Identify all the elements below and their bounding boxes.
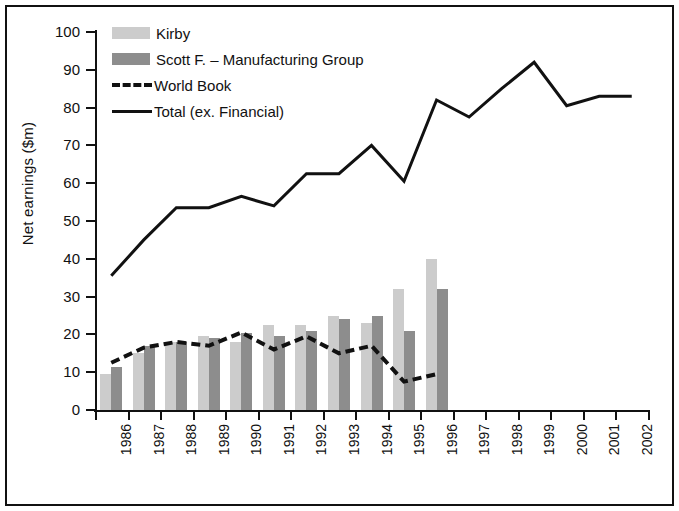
chart-figure: Net earnings ($m) 0102030405060708090100…: [0, 0, 679, 511]
x-tick-2: [160, 411, 162, 420]
legend-swatch-world-book: [112, 83, 152, 87]
legend-item-world-book: World Book: [112, 74, 364, 96]
y-tick-label-10: 10: [20, 363, 80, 380]
x-tick-7: [323, 411, 325, 420]
x-tick-15: [583, 411, 585, 420]
legend-item-total: Total (ex. Financial): [112, 100, 364, 122]
x-tick-5: [258, 411, 260, 420]
x-tick-label-1989: 1989: [216, 424, 232, 455]
y-tick-label-100: 100: [20, 23, 80, 40]
legend-label-world-book: World Book: [154, 77, 231, 94]
x-tick-label-2000: 2000: [574, 424, 590, 455]
legend-swatch-scott: [112, 53, 150, 65]
x-tick-3: [193, 411, 195, 420]
x-tick-label-2002: 2002: [639, 424, 655, 455]
y-tick-label-70: 70: [20, 136, 80, 153]
y-tick-label-80: 80: [20, 99, 80, 116]
y-tick-label-50: 50: [20, 212, 80, 229]
x-tick-label-1996: 1996: [444, 424, 460, 455]
x-axis-line: [94, 410, 650, 412]
x-tick-12: [485, 411, 487, 420]
x-tick-1: [128, 411, 130, 420]
x-tick-label-1995: 1995: [411, 424, 427, 455]
x-tick-label-1998: 1998: [509, 424, 525, 455]
x-tick-17: [648, 411, 650, 420]
line-world-book: [111, 333, 436, 382]
y-tick-label-30: 30: [20, 288, 80, 305]
legend-label-scott: Scott F. – Manufacturing Group: [156, 51, 364, 68]
legend-label-kirby: Kirby: [156, 25, 190, 42]
y-tick-label-60: 60: [20, 174, 80, 191]
legend-swatch-total: [112, 110, 152, 113]
legend-label-total: Total (ex. Financial): [154, 103, 284, 120]
x-tick-13: [518, 411, 520, 420]
x-tick-4: [225, 411, 227, 420]
x-tick-16: [615, 411, 617, 420]
x-tick-label-1993: 1993: [346, 424, 362, 455]
x-tick-label-1999: 1999: [541, 424, 557, 455]
x-tick-14: [550, 411, 552, 420]
x-tick-label-1987: 1987: [151, 424, 167, 455]
x-tick-label-1992: 1992: [313, 424, 329, 455]
x-tick-10: [420, 411, 422, 420]
legend-item-scott: Scott F. – Manufacturing Group: [112, 48, 364, 70]
legend-swatch-kirby: [112, 27, 150, 39]
x-tick-0: [95, 411, 97, 420]
legend-item-kirby: Kirby: [112, 22, 364, 44]
y-tick-label-0: 0: [20, 401, 80, 418]
x-tick-label-1997: 1997: [476, 424, 492, 455]
y-tick-label-90: 90: [20, 61, 80, 78]
x-tick-label-1990: 1990: [248, 424, 264, 455]
x-tick-label-1986: 1986: [118, 424, 134, 455]
chart-legend: Kirby Scott F. – Manufacturing Group Wor…: [112, 22, 364, 126]
x-tick-label-1994: 1994: [379, 424, 395, 455]
x-tick-6: [290, 411, 292, 420]
y-tick-label-20: 20: [20, 325, 80, 342]
x-tick-8: [355, 411, 357, 420]
x-tick-11: [453, 411, 455, 420]
x-tick-9: [388, 411, 390, 420]
y-tick-label-40: 40: [20, 250, 80, 267]
x-tick-label-2001: 2001: [606, 424, 622, 455]
x-tick-label-1988: 1988: [183, 424, 199, 455]
x-tick-label-1991: 1991: [281, 424, 297, 455]
